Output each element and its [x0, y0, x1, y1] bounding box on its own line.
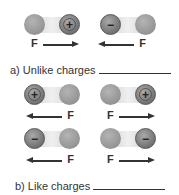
pair-b1: + [24, 84, 80, 106]
arrow-head-icon [26, 157, 33, 163]
neutral-ball [100, 128, 121, 149]
arrow-shaft [43, 44, 73, 46]
answer-blank [99, 72, 171, 74]
force-label: F [67, 109, 74, 121]
neutral-ball [59, 128, 80, 149]
arrow-head-icon [148, 157, 155, 163]
negative-charge-ball: − [135, 128, 156, 149]
force-arrow-left: F [96, 38, 146, 50]
caption-text: b) Like charges [15, 180, 90, 192]
force-arrow-left: F [24, 110, 74, 122]
pair-b3: − [24, 128, 80, 150]
caption-unlike-charges: a) Unlike charges [10, 64, 171, 76]
pair-a2: − [100, 14, 156, 36]
neutral-ball [59, 84, 80, 105]
force-label: F [31, 37, 38, 49]
plus-sign: + [136, 85, 155, 104]
negative-charge-ball: − [24, 128, 45, 149]
arrow-head-icon [98, 41, 105, 47]
arrow-shaft [119, 116, 149, 118]
plus-sign: + [60, 15, 79, 34]
arrow-shaft [32, 160, 62, 162]
neutral-ball [24, 14, 45, 35]
negative-charge-ball: − [100, 14, 121, 35]
force-arrow-left: F [24, 154, 74, 166]
pair-b4: − [100, 128, 156, 150]
positive-charge-ball: + [24, 84, 45, 105]
force-label: F [107, 153, 114, 165]
caption-text: a) Unlike charges [10, 64, 96, 76]
force-label: F [139, 37, 146, 49]
positive-charge-ball: + [135, 84, 156, 105]
pair-b2: + [100, 84, 156, 106]
force-arrow-right: F [31, 38, 81, 50]
neutral-ball [100, 84, 121, 105]
minus-sign: − [136, 129, 155, 148]
pair-a1: + [24, 14, 80, 36]
force-arrow-right: F [107, 110, 157, 122]
force-label: F [107, 109, 114, 121]
force-label: F [67, 153, 74, 165]
arrow-shaft [119, 160, 149, 162]
force-arrow-right: F [107, 154, 157, 166]
plus-sign: + [25, 85, 44, 104]
positive-charge-ball: + [59, 14, 80, 35]
arrow-head-icon [26, 113, 33, 119]
arrow-shaft [104, 44, 134, 46]
neutral-ball [135, 14, 156, 35]
minus-sign: − [25, 129, 44, 148]
answer-blank [93, 188, 165, 190]
minus-sign: − [101, 15, 120, 34]
arrow-head-icon [72, 41, 79, 47]
arrow-head-icon [148, 113, 155, 119]
arrow-shaft [32, 116, 62, 118]
caption-like-charges: b) Like charges [15, 180, 165, 192]
